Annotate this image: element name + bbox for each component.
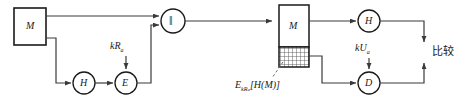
private-key-main: kR	[110, 40, 121, 51]
private-key-sub: a	[121, 47, 124, 53]
edge-hash-to-compare	[380, 21, 424, 42]
edge-message-to-hash	[46, 38, 71, 83]
edge-signature-to-decrypt	[309, 56, 356, 83]
source-message-box-label: M	[26, 21, 34, 31]
private-key-label: kRa	[110, 41, 124, 53]
compare-label: 比较	[432, 46, 454, 57]
decrypt-label: D	[365, 78, 372, 88]
encrypt-label: E	[122, 78, 128, 88]
signature-bracket: [H(M)]	[250, 79, 280, 90]
edge-encrypt-to-concat	[137, 25, 159, 83]
hash-receiver-label: H	[365, 16, 372, 26]
public-key-main: kU	[355, 42, 367, 53]
concat-circle	[161, 9, 185, 33]
edge-decrypt-to-compare	[380, 63, 424, 83]
public-key-sub: a	[367, 49, 370, 55]
signature-block-label: EkRa[H(M)]	[235, 80, 280, 92]
hash-sender-label: H	[80, 78, 87, 88]
received-message-box-label: M	[289, 21, 297, 31]
received-message-box-shape	[279, 5, 309, 67]
public-key-label: kUa	[355, 43, 370, 55]
concat-label: ‖	[169, 14, 172, 27]
signature-diagram: M H E ‖ M H D kRa kUa EkRa[H(M)] 比较	[0, 0, 473, 102]
